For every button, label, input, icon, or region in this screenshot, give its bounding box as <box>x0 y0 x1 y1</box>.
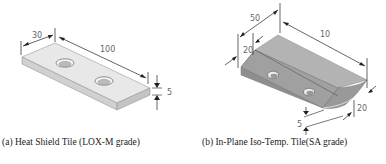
dimension-label-edge-top: 20 <box>243 46 253 55</box>
panel-iso-temp-tile: 50 20 10 20 5 (b) In-Plane Iso-Temp. Til… <box>193 0 386 164</box>
dimension-label-length: 100 <box>100 45 115 54</box>
caption-iso-temp-tile: (b) In-Plane Iso-Temp. Tile(SA grade) <box>202 137 347 147</box>
dimension-label-thickness: 5 <box>167 88 172 97</box>
dimension-label-width: 30 <box>32 31 42 40</box>
dimension-label-thickness: 5 <box>297 120 302 129</box>
dimension-label-width: 50 <box>250 14 260 23</box>
dimension-label-length: 10 <box>320 30 330 39</box>
dimension-label-edge-right: 20 <box>357 104 367 113</box>
panel-heat-shield-tile: 30 100 5 (a) Heat Shield Tile (LOX-M gra… <box>0 0 193 164</box>
caption-heat-shield-tile: (a) Heat Shield Tile (LOX-M grade) <box>2 137 140 147</box>
